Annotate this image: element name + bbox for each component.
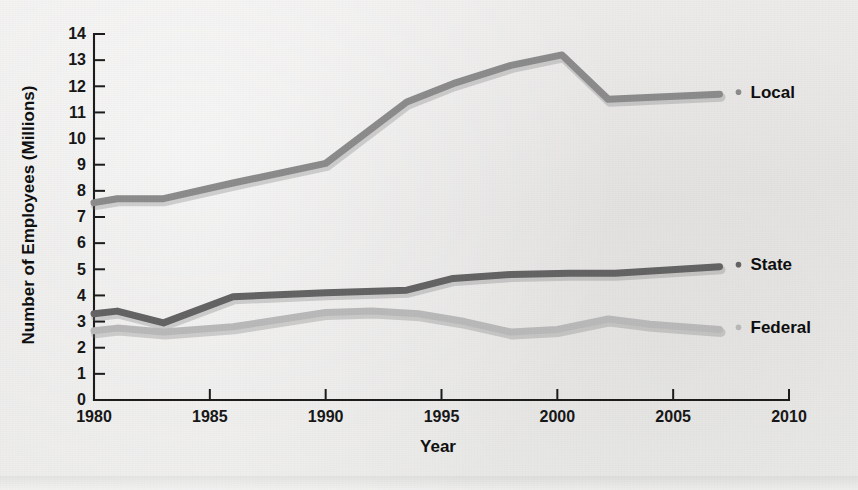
legend-entry-federal: Federal	[736, 318, 811, 337]
dot-marker	[736, 262, 742, 268]
series-line-local	[94, 55, 720, 203]
series-shadow-local	[96, 58, 722, 206]
x-tick-label: 1995	[424, 408, 460, 425]
x-tick-label: 2010	[771, 408, 807, 425]
data-series-group	[94, 55, 721, 335]
y-tick-label: 14	[68, 25, 86, 42]
y-tick-label: 13	[68, 51, 86, 68]
y-tick-label: 11	[69, 104, 86, 121]
y-tick-label: 7	[77, 208, 86, 225]
x-axis-title: Year	[420, 437, 456, 456]
x-tick-label: 2005	[655, 408, 691, 425]
y-tick-label: 8	[77, 182, 86, 199]
legend-entry-state: State	[736, 255, 792, 274]
x-axis-tick-labels: 1980198519901995200020052010	[76, 408, 807, 425]
legend-label: Federal	[751, 318, 811, 337]
y-tick-label: 2	[77, 339, 86, 356]
x-axis-ticks	[94, 389, 789, 400]
legend-label: Local	[751, 83, 795, 102]
y-tick-label: 12	[68, 78, 86, 95]
y-tick-label: 9	[77, 156, 86, 173]
y-tick-label: 1	[77, 365, 86, 382]
y-tick-label: 5	[77, 261, 86, 278]
y-tick-label: 6	[77, 234, 86, 251]
x-tick-label: 1990	[308, 408, 344, 425]
x-tick-label: 1985	[192, 408, 228, 425]
legend-label: State	[751, 255, 793, 274]
dot-marker	[736, 325, 742, 331]
x-tick-label: 1980	[76, 408, 112, 425]
chart-legend: LocalStateFederal	[736, 83, 811, 337]
y-axis: 01234567891011121314	[68, 25, 105, 408]
dot-marker	[736, 89, 742, 95]
x-tick-label: 2000	[540, 408, 576, 425]
chart-figure: 01234567891011121314 1980198519901995200…	[0, 0, 858, 490]
x-axis: 1980198519901995200020052010	[76, 389, 807, 425]
y-axis-ticks	[94, 34, 105, 400]
y-axis-tick-labels: 01234567891011121314	[68, 25, 86, 408]
y-tick-label: 3	[77, 313, 86, 330]
line-chart-plot: 01234567891011121314 1980198519901995200…	[0, 0, 858, 490]
y-tick-label: 0	[77, 391, 86, 408]
y-tick-label: 4	[77, 287, 86, 304]
y-axis-title: Number of Employees (Millions)	[19, 86, 38, 345]
y-tick-label: 10	[68, 130, 86, 147]
legend-entry-local: Local	[736, 83, 795, 102]
